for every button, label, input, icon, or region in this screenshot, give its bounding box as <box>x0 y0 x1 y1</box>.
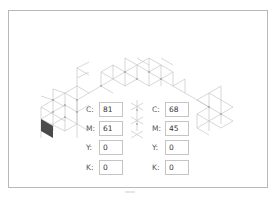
left-black-input[interactable] <box>99 160 123 175</box>
cyan-label: C: <box>86 105 99 114</box>
isometric-triangle-grid <box>0 0 280 197</box>
yellow-label: Y: <box>86 143 99 152</box>
black-label: K: <box>152 163 165 172</box>
right-magenta-input[interactable] <box>165 121 189 136</box>
right-black-input[interactable] <box>165 160 189 175</box>
right-yellow-field: Y: <box>152 140 189 155</box>
right-magenta-field: M: <box>152 121 189 136</box>
yellow-label: Y: <box>152 143 165 152</box>
right-black-field: K: <box>152 160 189 175</box>
left-magenta-input[interactable] <box>99 121 123 136</box>
right-cyan-field: C: <box>152 102 189 117</box>
left-magenta-field: M: <box>86 121 123 136</box>
left-yellow-field: Y: <box>86 140 123 155</box>
left-yellow-input[interactable] <box>99 140 123 155</box>
right-cyan-input[interactable] <box>165 102 189 117</box>
left-cyan-field: C: <box>86 102 123 117</box>
left-black-field: K: <box>86 160 123 175</box>
caption-mark <box>125 191 135 193</box>
black-label: K: <box>86 163 99 172</box>
magenta-label: M: <box>86 124 99 133</box>
cyan-label: C: <box>152 105 165 114</box>
right-yellow-input[interactable] <box>165 140 189 155</box>
magenta-label: M: <box>152 124 165 133</box>
left-cyan-input[interactable] <box>99 102 123 117</box>
